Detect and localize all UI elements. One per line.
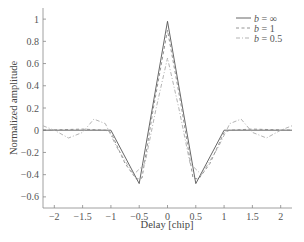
y-tick-label: −0.2: [21, 147, 39, 158]
x-tick-label: 2: [278, 211, 283, 222]
y-tick-label: 0.2: [27, 103, 40, 114]
series-group: [43, 21, 292, 183]
y-tick-label: −0.6: [21, 191, 39, 202]
chart: −2−1.5−1−0.500.511.52 10.80.60.40.20−0.2…: [0, 0, 304, 242]
y-axis-label: Normalized amplitude: [8, 61, 19, 156]
x-tick-label: 1.5: [246, 211, 259, 222]
y-tick-label: 0: [34, 125, 39, 136]
legend: b = ∞ b = 1 b = 0.5: [236, 13, 282, 44]
y-tick-label: −0.4: [21, 169, 39, 180]
y-tick-label: 0.6: [27, 58, 40, 69]
x-axis-label: Delay [chip]: [141, 219, 194, 230]
y-tick-label: 0.8: [27, 36, 40, 47]
series-line-2: [43, 58, 292, 175]
legend-item-b-05: b = 0.5: [236, 33, 282, 44]
x-tick-label: −1: [106, 211, 117, 222]
y-tick-label: 1: [34, 14, 39, 25]
x-tick-label: 1: [222, 211, 227, 222]
x-tick-label: −1.5: [74, 211, 92, 222]
series-line-1: [43, 30, 292, 179]
y-tick-label: 0.4: [27, 80, 40, 91]
legend-eq: = 0.5: [259, 33, 282, 44]
series-line-0: [43, 21, 292, 183]
x-tick-label: −2: [49, 211, 60, 222]
svg-text:b = 0.5: b = 0.5: [254, 33, 282, 44]
y-ticks: 10.80.60.40.20−0.2−0.4−0.6: [21, 14, 46, 203]
